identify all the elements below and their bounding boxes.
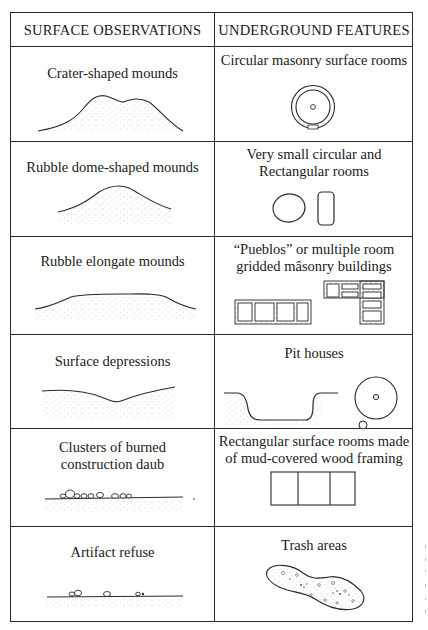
circular-masonry-room-icon [215,47,413,141]
three-room-plan-icon [215,429,413,526]
underground-cell: Trash areas [215,527,413,622]
underground-cell: Pit houses [215,335,413,428]
surface-cell: Crater-shaped mounds [11,47,214,141]
burned-daub-icon [11,429,214,526]
margin-marks [423,540,428,620]
surface-cell: Artifact refuse [11,527,214,622]
dome-mound-icon [11,142,214,236]
surface-cell: Rubble elongate mounds [11,237,214,334]
elongate-mound-icon [11,237,214,334]
trash-area-icon [215,527,413,622]
artifact-refuse-icon [11,527,214,622]
comparison-table: SURFACE OBSERVATIONS UNDERGROUND FEATURE… [10,12,413,622]
header-surface-observations: SURFACE OBSERVATIONS [11,13,214,47]
header-underground-features: UNDERGROUND FEATURES [215,13,413,47]
pit-house-icon [215,335,413,428]
underground-cell: Rectangular surface rooms made of mud-co… [215,429,413,526]
underground-cell: “Pueblos” or multiple room gridded mâson… [215,237,413,334]
crater-mound-icon [11,47,214,141]
underground-cell: Very small circular and Rectangular room… [215,142,413,236]
pueblo-grid-icon [215,237,413,334]
surface-cell: Clusters of burned construction daub [11,429,214,526]
small-rooms-icon [215,142,413,236]
depression-icon [11,335,214,428]
surface-cell: Surface depressions [11,335,214,428]
underground-cell: Circular masonry surface rooms [215,47,413,141]
surface-cell: Rubble dome-shaped mounds [11,142,214,236]
